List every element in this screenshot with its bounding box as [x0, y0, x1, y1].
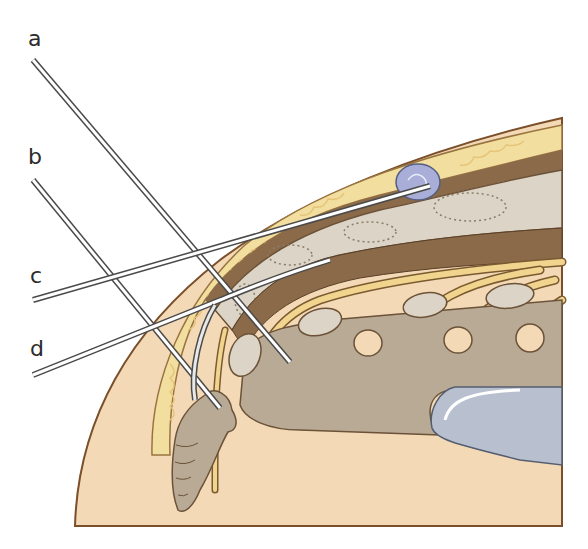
label-b: b	[28, 146, 42, 168]
needle-approach-diagram: a b c d	[0, 0, 588, 549]
label-a: a	[28, 28, 41, 50]
illustration-canvas	[0, 0, 588, 549]
label-d: d	[30, 338, 44, 360]
label-c: c	[30, 265, 42, 287]
